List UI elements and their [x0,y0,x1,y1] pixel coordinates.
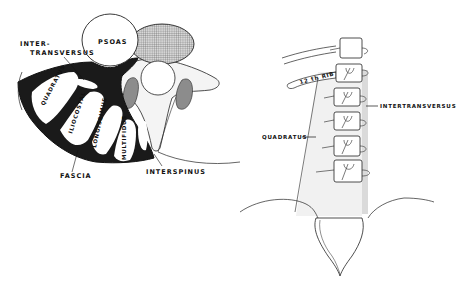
spine-posterior-diagram: 12 th RIB [240,38,456,276]
spinal-canal [141,61,175,95]
iliac-crest-right [368,198,434,218]
cross-section-diagram: PSOAS INTER- TRANSVERSUS QUADRATUS ILIOC… [18,14,240,180]
skin-line [158,152,240,164]
label-intertransversus: INTERTRANSVERSUS [380,103,456,109]
label-intertransversus-2: TRANSVERSUS [30,49,95,57]
label-intertransversus-1: INTER- [20,40,50,48]
intertransversus-muscle-lines [363,70,367,214]
sacrum [315,218,363,276]
upper-rib [282,46,336,64]
vertebra-t12 [340,38,362,58]
label-multifidus: MULTIFIDUS [121,115,127,160]
interspinus-leader [154,154,162,166]
anatomy-figure: PSOAS INTER- TRANSVERSUS QUADRATUS ILIOC… [0,0,464,283]
vertebral-body [130,24,194,64]
label-interspinus: INTERSPINUS [146,168,206,176]
label-quadratus-right: QUADRATUS [262,134,307,140]
label-psoas: PSOAS [98,38,128,46]
label-fascia: FASCIA [60,172,92,180]
